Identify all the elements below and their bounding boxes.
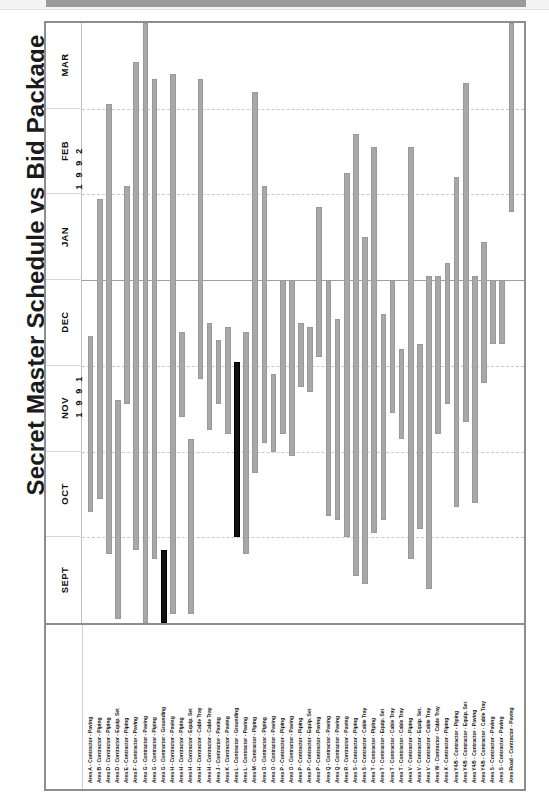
gantt-bar [445, 263, 451, 404]
task-label: Area D - Contractor - Equip. Set [115, 708, 120, 783]
task-label: Area H - Contractor - Paving [170, 716, 175, 783]
task-label: Area S - Contractor - Paving [499, 716, 504, 783]
gantt-bar [326, 280, 332, 516]
gantt-bar [390, 280, 396, 413]
gantt-bar [381, 314, 387, 520]
gantt-bar [481, 242, 487, 383]
gantt-bar [463, 83, 469, 422]
gantt-bar [335, 319, 341, 520]
gantt-bar [179, 332, 185, 418]
gantt-bar [454, 177, 460, 507]
month-axis-cell-sept: SEPT [46, 537, 82, 623]
task-label: Area G - Contractor - Piping [152, 717, 157, 783]
gantt-bar [106, 104, 112, 554]
gantt-bar [97, 199, 103, 499]
gantt-bar [472, 276, 478, 503]
gantt-bar [143, 23, 149, 623]
task-label: Area K - Contractor - Paving [225, 716, 230, 783]
gantt-bar [298, 323, 304, 387]
month-label-sept: SEPT [59, 567, 70, 593]
task-label: Area G - Contractor - Grounding [161, 707, 166, 783]
year-label-1991: 1 9 9 1 [74, 356, 84, 436]
gantt-bar [490, 280, 496, 344]
gantt-bar [225, 327, 231, 434]
task-label: Area X - Contractor - Piping [444, 718, 449, 783]
gantt-bar [133, 62, 139, 551]
task-label: Area L - Contractor - Grounding [234, 708, 239, 783]
scan-header-bar [46, 0, 526, 7]
task-label: Area S - Contractor - Piping [353, 718, 358, 783]
task-label: Area W - Contractor - Cable Tray [435, 706, 440, 783]
scan-top-edge [0, 0, 549, 10]
task-label: Area O - Contractor - Piping [261, 717, 266, 783]
task-label-strip: Area A - Contractor - PavingArea B - Con… [44, 625, 526, 791]
gantt-bar [435, 276, 441, 435]
figure-caption [0, 791, 549, 800]
gantt-bar [509, 23, 515, 212]
month-label-nov: NOV [59, 397, 70, 419]
gantt-bar [188, 439, 194, 615]
month-axis-cell-oct: OCT [46, 452, 82, 538]
task-label: Area Y4/5 - Contractor - Piping [454, 711, 459, 783]
gantt-bar [271, 374, 277, 451]
task-label: Area V - Contractor - Piping [408, 718, 413, 783]
task-label: Area A - Contractor - Paving [88, 717, 93, 783]
gantt-bar [316, 207, 322, 357]
month-label-oct: OCT [59, 483, 70, 504]
gantt-bar [115, 400, 121, 619]
task-label: Area H - Contractor - Cable Tray [197, 707, 202, 783]
month-axis-cell-dec: DEC [46, 280, 82, 366]
gantt-bar [198, 79, 204, 379]
year-label-1992: 1 9 9 2 [74, 128, 84, 208]
gantt-bar [408, 147, 414, 558]
task-labels-container: Area A - Contractor - PavingArea B - Con… [82, 625, 524, 789]
month-axis-cell-mar: MAR [46, 23, 82, 109]
task-label: Area Q - Contractor - Paving [335, 716, 340, 783]
task-label: Area P - Contractor - Piping [280, 718, 285, 783]
task-label: Area Y4/5 - Contractor - Paving [472, 710, 477, 783]
gantt-bar [280, 280, 286, 434]
task-label: Area S - Contractor - Cable Tray [362, 708, 367, 783]
task-label: Area D - Contractor - Piping [106, 717, 111, 783]
gantt-bar [216, 340, 222, 404]
task-label: Area L - Contractor - Paving [243, 717, 248, 783]
task-label: Area H - Contractor - Cable Tray [207, 707, 212, 783]
task-label: Area Q - Contractor - Paving [325, 716, 330, 783]
month-label-jan: JAN [59, 227, 70, 247]
task-label: Area B - Contractor - Piping [97, 717, 102, 783]
gantt-bar [289, 280, 295, 456]
gantt-bar [307, 327, 313, 391]
task-label: Area T - Contractor - Piping [371, 718, 376, 783]
gantt-chart-plot-area: MARFEBJANDECNOVOCTSEPT 1 9 9 2 1 9 9 1 [44, 21, 526, 625]
gantt-bar [353, 134, 359, 575]
task-label: Area V - Contractor - Equip. Set. [417, 707, 422, 783]
gantt-bar [88, 336, 94, 512]
task-label: Area T - Contractor - Cable Tray [389, 708, 394, 783]
task-label: Area Y4/5 - Contractor - Equip. Set [463, 702, 468, 783]
task-label: Area T - Contractor - Equip. Set [380, 709, 385, 783]
task-label: Area G - Contractor - Paving [142, 716, 147, 783]
gantt-bar [161, 550, 167, 623]
task-label: Area Road - Contractor - Paving [508, 707, 513, 783]
month-label-mar: MAR [59, 54, 70, 77]
task-label: Area R - Contractor - Paving [344, 716, 349, 783]
month-label-dec: DEC [59, 312, 70, 333]
gantt-bar [262, 186, 268, 443]
bars-container [82, 23, 524, 623]
gantt-bar [344, 173, 350, 537]
task-label: Area T - Contractor - Cable Tray [399, 708, 404, 783]
task-label: Area H - Contractor - Equip. Set [188, 708, 193, 783]
month-axis: MARFEBJANDECNOVOCTSEPT [46, 23, 82, 623]
gantt-bar [207, 323, 213, 430]
task-label: Area E - Contractor - Piping [124, 718, 129, 783]
task-label: Area J - Contractor - Paving [216, 717, 221, 783]
task-label: Area F - Contractor - Paving [133, 717, 138, 783]
task-label: Area V - Contractor - Cable Tray [426, 708, 431, 783]
gantt-bar [362, 237, 368, 584]
gantt-bar [426, 276, 432, 589]
gantt-bar [170, 74, 176, 614]
gantt-bar [371, 147, 377, 533]
task-label: Area M - Contractor - Piping [252, 717, 257, 783]
task-label: Area P - Contractor - Piping [298, 718, 303, 783]
task-label: Area Y4/5 - Contractor - Cable Tray [481, 701, 486, 783]
